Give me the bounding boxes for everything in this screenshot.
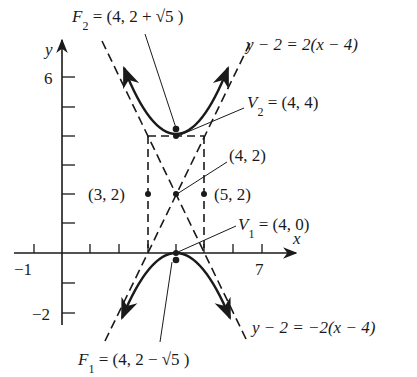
y-tick-neg2: −2 [32,305,50,324]
y-ticks [62,77,75,313]
center-point [173,191,179,197]
vertex-v1-point [173,250,179,256]
y-axis-label: y [43,40,53,59]
label-f2: F2 = (4, 2 + √5 ) [71,7,183,33]
hyperbola-upper-branch [124,68,228,134]
left-point [145,191,151,197]
label-asymptote-positive: y − 2 = 2(x − 4) [244,35,358,54]
label-asymptote-negative: y − 2 = −2(x − 4) [250,318,376,337]
right-point [201,191,207,197]
hyperbola-figure: 6 −2 −1 7 y x F2 = (4, 2 + √5 ) y − 2 = … [0,0,417,377]
label-center: (4, 2) [229,146,266,165]
x-tick-neg1: −1 [14,260,32,279]
label-right-point: (5, 2) [214,185,251,204]
label-f1: F1 = (4, 2 − √5 ) [77,350,189,376]
focus-f1-point [173,257,180,264]
y-tick-6: 6 [44,69,53,88]
label-v2: V2 = (4, 4) [247,93,318,119]
label-left-point: (3, 2) [88,185,125,204]
x-tick-7: 7 [255,260,264,279]
